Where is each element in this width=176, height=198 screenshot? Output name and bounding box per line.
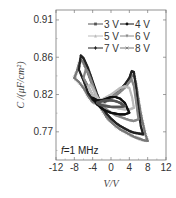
- annotation-rest: =1 MHz: [64, 145, 99, 156]
- legend-label: 3 V: [104, 19, 119, 30]
- legend-label: 7 V: [104, 43, 119, 54]
- x-tick-label: -8: [70, 162, 79, 173]
- data-point-star: [94, 46, 97, 50]
- annotation-frequency: f=1 MHz: [61, 145, 99, 156]
- data-point-circle: [126, 23, 129, 26]
- cv-hysteresis-chart: -12-8-404812 0.910.860.820.77 3 V4 V5 V6…: [0, 0, 176, 198]
- legend-label: 8 V: [135, 43, 150, 54]
- series-layer: [73, 54, 149, 142]
- legend-label: 5 V: [104, 31, 119, 42]
- legend-item: 6 V: [120, 31, 150, 42]
- y-axis-title: C /(μF/cm²): [15, 61, 27, 109]
- x-tick-label: -4: [88, 162, 97, 173]
- data-point-square: [94, 23, 97, 26]
- legend-label: 4 V: [135, 19, 150, 30]
- data-point-circle: [92, 97, 94, 99]
- x-axis-title: V/V: [104, 178, 121, 189]
- y-tick-label: 0.77: [34, 126, 54, 137]
- legend: 3 V4 V5 V6 V7 V8 V: [88, 19, 150, 54]
- legend-label: 6 V: [135, 31, 150, 42]
- y-tick-label: 0.91: [34, 14, 54, 25]
- x-tick-label: 4: [127, 162, 133, 173]
- x-tick-label: 0: [108, 162, 114, 173]
- y-tick-label: 0.86: [34, 52, 54, 63]
- legend-item: 5 V: [88, 31, 119, 42]
- x-tick-label: 8: [145, 162, 151, 173]
- legend-item: 3 V: [88, 19, 119, 30]
- x-tick-label: -12: [49, 162, 64, 173]
- y-tick-label: 0.82: [34, 89, 54, 100]
- legend-item: 7 V: [88, 43, 119, 54]
- legend-item: 4 V: [120, 19, 150, 30]
- x-tick-label: 12: [160, 162, 172, 173]
- data-point-square: [96, 102, 98, 104]
- legend-item: 8 V: [120, 43, 150, 54]
